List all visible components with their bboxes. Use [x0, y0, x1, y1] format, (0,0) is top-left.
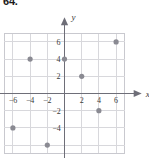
x-axis-label: x: [145, 89, 149, 99]
x-tick-label: 4: [97, 96, 101, 105]
data-point: [79, 74, 84, 79]
y-axis-label: y: [71, 12, 76, 22]
x-tick-label: −6: [9, 96, 17, 105]
data-point: [96, 108, 101, 113]
scatter-plot-svg: −6−4−2246642−2−4 xy: [0, 0, 149, 163]
y-axis-arrowhead: [61, 17, 68, 25]
axis-names-group: xy: [71, 12, 150, 99]
x-tick-label: −4: [26, 96, 34, 105]
y-tick-label: −4: [53, 124, 61, 133]
data-point: [62, 57, 67, 62]
y-tick-label: 4: [57, 55, 61, 64]
x-axis-arrowhead: [134, 90, 142, 97]
x-tick-label: 6: [114, 96, 118, 105]
coordinate-plane-figure: −6−4−2246642−2−4 xy: [0, 0, 149, 163]
data-point: [114, 39, 119, 44]
x-tick-label: −2: [43, 96, 51, 105]
y-tick-label: 6: [57, 38, 61, 47]
axes-group: [0, 17, 142, 157]
data-point: [45, 143, 50, 148]
data-point: [28, 57, 33, 62]
y-tick-label: 2: [57, 72, 61, 81]
x-tick-label: 2: [80, 96, 84, 105]
y-tick-label: −2: [53, 107, 61, 116]
data-point: [10, 125, 15, 130]
tick-labels-group: −6−4−2246642−2−4: [9, 38, 118, 133]
